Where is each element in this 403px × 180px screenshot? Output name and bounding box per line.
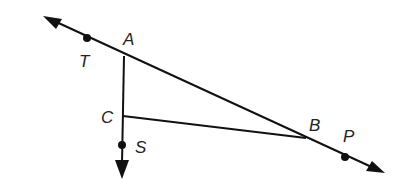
- label-a: A: [122, 30, 134, 49]
- label-p: P: [343, 127, 355, 146]
- point-p-dot: [341, 153, 349, 161]
- point-s-dot: [118, 141, 126, 149]
- label-c: C: [101, 108, 114, 127]
- label-t: T: [79, 52, 91, 71]
- arrow-left-icon: [43, 16, 62, 29]
- line-tp: [52, 20, 376, 169]
- segment-cb: [123, 116, 306, 138]
- point-t-dot: [83, 34, 91, 42]
- arrow-right-icon: [366, 161, 385, 173]
- label-b: B: [309, 116, 320, 135]
- label-s: S: [135, 138, 147, 157]
- geometry-diagram: T A C S B P: [0, 0, 403, 180]
- arrow-down-icon: [115, 160, 129, 179]
